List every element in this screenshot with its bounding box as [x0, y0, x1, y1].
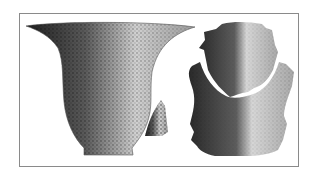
flared-bowl	[26, 22, 195, 155]
pottery-drawing	[0, 0, 313, 179]
